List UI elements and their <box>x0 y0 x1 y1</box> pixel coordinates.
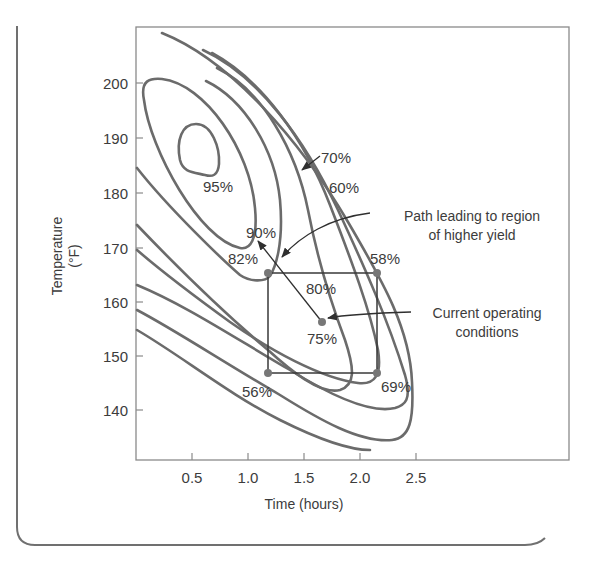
y-tick-label: 170 <box>103 240 128 257</box>
contour-label-60: 60% <box>329 179 359 196</box>
contour-95 <box>179 124 219 176</box>
point-label-sw: 56% <box>242 383 272 400</box>
point-nw <box>264 269 272 277</box>
y-axis-title-line2: (°F) <box>66 244 82 267</box>
point-label-ne: 58% <box>370 250 400 267</box>
y-tick-label: 200 <box>103 75 128 92</box>
point-label-center: 75% <box>307 330 337 347</box>
y-tick-label: 160 <box>103 294 128 311</box>
y-axis <box>136 83 143 410</box>
contour-label-90: 90% <box>246 224 276 241</box>
annotation-current-line1: Current operating <box>433 305 542 321</box>
x-tick-label: 2.0 <box>350 469 371 486</box>
annotation-current-line2: conditions <box>455 324 518 340</box>
x-tick-label: 2.5 <box>406 469 427 486</box>
point-label-nw: 82% <box>228 250 258 267</box>
page-border <box>17 26 545 545</box>
point-sw <box>264 369 272 377</box>
x-axis <box>192 453 416 460</box>
point-se <box>373 369 381 377</box>
x-tick-label: 1.0 <box>238 469 259 486</box>
x-tick-labels: 0.5 1.0 1.5 2.0 2.5 <box>182 469 427 486</box>
y-axis-title-line1: Temperature <box>49 216 65 295</box>
x-axis-title: Time (hours) <box>265 496 344 512</box>
annotation-path-line2: of higher yield <box>428 227 515 243</box>
contour-label-80: 80% <box>306 280 336 297</box>
annotation-path-line1: Path leading to region <box>404 208 540 224</box>
x-tick-label: 0.5 <box>182 469 203 486</box>
x-tick-label: 1.5 <box>294 469 315 486</box>
response-surface-contour-chart: 200 190 180 170 160 150 140 0.5 1.0 1.5 … <box>0 0 600 564</box>
y-axis-title: Temperature (°F) <box>49 216 82 295</box>
y-tick-label: 180 <box>103 185 128 202</box>
y-tick-labels: 200 190 180 170 160 150 140 <box>103 75 128 419</box>
y-tick-label: 150 <box>103 348 128 365</box>
contour-label-95: 95% <box>203 178 233 195</box>
point-label-se: 69% <box>381 378 411 395</box>
contour-lines <box>137 33 412 450</box>
y-tick-label: 190 <box>103 130 128 147</box>
contour-label-70: 70% <box>321 149 351 166</box>
point-center <box>318 318 326 326</box>
point-ne <box>373 269 381 277</box>
y-tick-label: 140 <box>103 402 128 419</box>
